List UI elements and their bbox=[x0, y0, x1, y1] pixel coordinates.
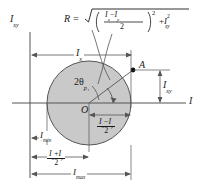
figure-canvas bbox=[0, 0, 202, 190]
mohrs-circle-figure: Ixy I R = Ix−Iy 2 2 +I2xy Ix A Ixy 2θp₁ … bbox=[0, 0, 202, 190]
dim-ix-arrow-left bbox=[31, 53, 37, 58]
point-A-label: A bbox=[139, 60, 145, 70]
dim-label-half-sum: Ix+Iy 2 bbox=[47, 150, 65, 167]
center-label-O: O bbox=[81, 105, 88, 115]
paren-left bbox=[96, 12, 99, 32]
dim-halfsum-arrow-left bbox=[31, 155, 37, 160]
radical-sign bbox=[85, 9, 92, 22]
vertical-axis-label: Ixy bbox=[10, 14, 19, 24]
dim-label-imin: Imin bbox=[39, 131, 52, 140]
dim-halfsum-arrow-right bbox=[83, 155, 89, 160]
radius-paren-exponent: 2 bbox=[152, 10, 155, 17]
paren-right bbox=[148, 12, 151, 32]
dim-ixy-arrow-top bbox=[158, 70, 163, 76]
dim-label-half-difference: Ix−Iy 2 bbox=[97, 118, 115, 135]
radius-plus-term: +I2xy bbox=[159, 17, 170, 26]
dim-label-ixy: Ixy bbox=[163, 80, 172, 90]
angle-label-2theta-p1: 2θp₁ bbox=[74, 77, 89, 87]
dim-label-ix: Ix bbox=[74, 48, 84, 58]
radius-fraction-denominator: 2 bbox=[120, 23, 124, 31]
horizontal-axis-label: I bbox=[189, 96, 192, 106]
dim-imax-arrow-right bbox=[125, 172, 131, 177]
dim-label-imax: Imax bbox=[71, 168, 87, 177]
radius-fraction-numerator: Ix−Iy bbox=[105, 11, 119, 19]
dim-imin-arrow-left bbox=[31, 136, 37, 141]
dim-imax-arrow-left bbox=[31, 172, 37, 177]
dim-ixy-arrow-bottom bbox=[158, 97, 163, 103]
radius-equation-lhs: R = bbox=[64, 14, 79, 24]
